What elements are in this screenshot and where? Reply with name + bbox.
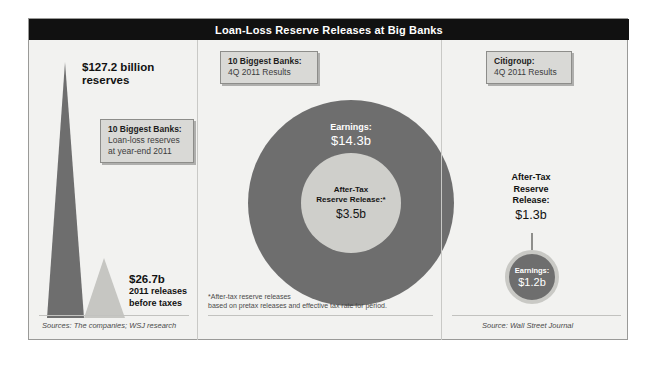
divider-left — [39, 315, 189, 316]
callout-ten-biggest-banks-results: 10 Biggest Banks: 4Q 2011 Results — [220, 51, 318, 84]
callout-line-1: Loan-loss reserves — [108, 135, 186, 146]
reserves-value: $127.2 billion — [82, 61, 154, 74]
releases-label-line-2: before taxes — [129, 298, 187, 310]
panel-reserves: $127.2 billion reserves 10 Biggest Banks… — [29, 40, 197, 340]
callout-line-1: 4Q 2011 Results — [228, 67, 310, 78]
panel-ten-biggest-banks: 10 Biggest Banks: 4Q 2011 Results Earnin… — [197, 40, 441, 340]
reserve-release-caption-line-2: Reserve Release:* — [316, 195, 385, 206]
donut-big-core: After-Tax Reserve Release:* $3.5b — [301, 153, 401, 253]
footnote: *After-tax reserve releases based on pre… — [208, 292, 433, 310]
citigroup-reserve-release-annotation: After-Tax Reserve Release: $1.3b — [486, 172, 576, 223]
earnings-value: $1.2b — [518, 276, 546, 289]
annotation-line-1: After-Tax — [486, 172, 576, 184]
chart-title-bar: Loan-Loss Reserve Releases at Big Banks — [29, 19, 629, 40]
annotation-value: $1.3b — [486, 208, 576, 223]
callout-title: 10 Biggest Banks: — [108, 124, 186, 135]
annotation-line-2: Reserve — [486, 184, 576, 196]
releases-annotation: $26.7b 2011 releases before taxes — [129, 273, 187, 309]
callout-line-2: at year-end 2011 — [108, 146, 186, 157]
divider-right — [452, 315, 621, 316]
spike-releases-shape — [84, 258, 125, 318]
infographic-figure: Loan-Loss Reserve Releases at Big Banks … — [28, 18, 628, 340]
source-note-right: Source: Wall Street Journal — [482, 321, 573, 330]
source-note-left: Sources: The companies; WSJ research — [42, 321, 176, 330]
footnote-line-1: *After-tax reserve releases — [208, 292, 433, 301]
leader-line — [531, 233, 533, 250]
callout-title: Citigroup: — [494, 56, 564, 67]
earnings-caption: Earnings: — [515, 266, 550, 276]
annotation-line-3: Release: — [486, 195, 576, 207]
footnote-line-2: based on pretax releases and effective t… — [208, 301, 433, 310]
reserve-release-caption-line-1: After-Tax — [334, 185, 369, 196]
releases-value: $26.7b — [129, 273, 187, 286]
callout-line-1: 4Q 2011 Results — [494, 67, 564, 78]
page-title: Loan-Loss Reserve Releases at Big Banks — [215, 24, 443, 36]
panel-citigroup: Citigroup: 4Q 2011 Results After-Tax Res… — [441, 40, 629, 340]
callout-ten-biggest-banks-reserves: 10 Biggest Banks: Loan-loss reserves at … — [100, 119, 194, 163]
divider-middle — [208, 315, 433, 316]
donut-chart-small: Earnings: $1.2b — [505, 250, 559, 304]
callout-title: 10 Biggest Banks: — [228, 56, 310, 67]
earnings-value: $14.3b — [248, 133, 454, 149]
earnings-caption: Earnings: — [248, 121, 454, 133]
callout-citigroup-results: Citigroup: 4Q 2011 Results — [486, 51, 572, 84]
spike-reserves-shape — [47, 62, 84, 318]
reserve-release-value: $3.5b — [336, 207, 366, 222]
donut-big-ring-label: Earnings: $14.3b — [248, 121, 454, 149]
releases-label-line-1: 2011 releases — [129, 286, 187, 298]
reserves-annotation: $127.2 billion reserves — [82, 61, 154, 87]
donut-chart-big: Earnings: $14.3b After-Tax Reserve Relea… — [248, 100, 454, 306]
reserves-label: reserves — [82, 74, 154, 87]
